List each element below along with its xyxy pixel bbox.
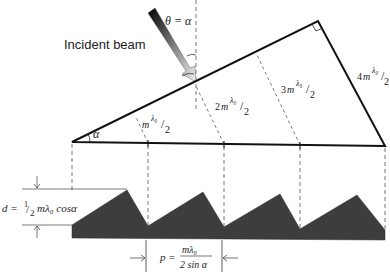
- step2-denom: 2: [244, 106, 249, 117]
- blazed-grating-profile: [72, 190, 385, 240]
- step3-denom: 2: [310, 89, 315, 100]
- step1-m: m: [142, 119, 149, 130]
- step4-lambda: λ₀: [371, 66, 378, 75]
- depth-lhs: d =: [2, 202, 18, 214]
- step2-m: m: [221, 101, 228, 112]
- alpha-angle-arc: [88, 134, 90, 142]
- depth-formula: d = 1 / 2 mλ₀ cosα: [2, 200, 77, 218]
- step3-coef: 3: [281, 84, 286, 95]
- step4-m: m: [363, 71, 370, 82]
- step4-coef: 4: [357, 71, 362, 82]
- depth-frac-den: 2: [30, 208, 35, 218]
- period-formula: p = mλ₀ 2 sin α: [159, 244, 212, 270]
- path-diff-line-2: [196, 86, 224, 144]
- step2-coef: 2: [215, 101, 220, 112]
- alpha-label: α: [93, 127, 100, 141]
- step3-lambda: λ₀: [295, 79, 302, 88]
- step-label-2: 2 m λ₀ / 2: [215, 96, 249, 117]
- step1-denom: 2: [165, 124, 170, 135]
- period-lhs: p =: [159, 251, 176, 263]
- grating-diagram: Incident beam θ = α α m λ₀ / 2 2 m λ₀ / …: [0, 0, 390, 274]
- step-label-1: m λ₀ / 2: [142, 114, 170, 135]
- step3-m: m: [287, 84, 294, 95]
- depth-rhs: mλ₀ cosα: [37, 202, 77, 214]
- period-num: mλ₀: [182, 244, 198, 255]
- incident-beam-label: Incident beam: [64, 37, 146, 52]
- step1-lambda: λ₀: [150, 114, 157, 123]
- period-den: 2 sin α: [180, 259, 208, 270]
- theta-angle-arc: [187, 54, 196, 56]
- theta-equals-alpha-label: θ = α: [165, 14, 192, 28]
- step-label-3: 3 m λ₀ / 2: [281, 79, 315, 100]
- step2-lambda: λ₀: [229, 96, 236, 105]
- step-label-4: 4 m λ₀ / 2: [357, 66, 389, 87]
- step4-denom: 2: [384, 76, 389, 87]
- path-diff-line-3: [257, 55, 300, 145]
